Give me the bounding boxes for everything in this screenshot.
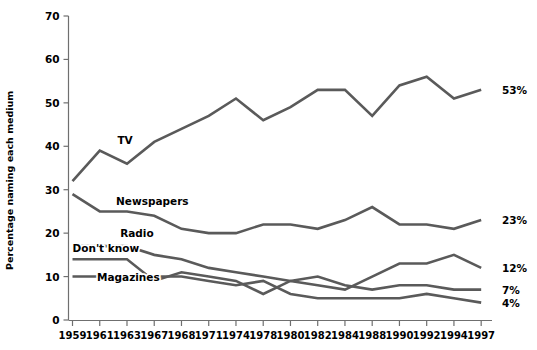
- x-tick-label: 1990: [386, 330, 414, 341]
- x-tick-label: 1978: [249, 330, 277, 341]
- y-tick-group: 706050403020100: [45, 10, 69, 326]
- line-chart: 706050403020100 195919611963196719681971…: [0, 0, 537, 350]
- x-tick-group: 1959196119631967196819711974197819801982…: [59, 320, 496, 341]
- x-tick-label: 1968: [168, 330, 196, 341]
- end-label-newspapers: 23%: [502, 214, 528, 226]
- chart-container: 706050403020100 195919611963196719681971…: [0, 0, 537, 350]
- x-tick-label: 1974: [222, 330, 250, 341]
- series-label-tv: TV: [117, 134, 133, 146]
- end-label-don-t-know: 7%: [502, 284, 520, 296]
- end-label-radio: 12%: [502, 262, 528, 274]
- y-tick-label: 60: [45, 53, 60, 65]
- y-tick-label: 0: [52, 314, 59, 326]
- x-tick-label: 1963: [113, 330, 141, 341]
- x-tick-label: 1992: [413, 330, 441, 341]
- x-tick-label: 1982: [304, 330, 332, 341]
- end-label-tv: 53%: [502, 84, 528, 96]
- y-tick-label: 50: [45, 97, 60, 109]
- x-tick-label: 1959: [59, 330, 87, 341]
- y-tick-label: 20: [45, 227, 60, 239]
- y-tick-label: 10: [45, 271, 60, 283]
- series-label-newspapers: Newspapers: [116, 195, 189, 207]
- y-tick-label: 70: [45, 10, 60, 22]
- x-tick-label: 1980: [277, 330, 305, 341]
- series-label-radio: Radio: [120, 227, 154, 239]
- x-tick-label: 1988: [358, 330, 386, 341]
- x-tick-label: 1994: [440, 330, 468, 341]
- y-tick-label: 40: [45, 140, 60, 152]
- series-line-tv: [73, 77, 482, 181]
- y-axis-title: Percentage naming each medium: [4, 91, 15, 270]
- y-axis-title-group: Percentage naming each medium: [4, 91, 15, 270]
- series-label-don-t-know: Don't know: [73, 242, 140, 254]
- series-label-magazines: Magazines: [97, 271, 160, 283]
- end-label-magazines: 4%: [502, 297, 520, 309]
- x-tick-label: 1997: [467, 330, 495, 341]
- y-tick-label: 30: [45, 184, 60, 196]
- end-label-group: 53%23%12%7%4%: [502, 84, 528, 309]
- x-tick-label: 1961: [86, 330, 114, 341]
- x-tick-label: 1967: [140, 330, 168, 341]
- x-tick-label: 1984: [331, 330, 359, 341]
- series-group: [73, 77, 482, 303]
- x-tick-label: 1971: [195, 330, 223, 341]
